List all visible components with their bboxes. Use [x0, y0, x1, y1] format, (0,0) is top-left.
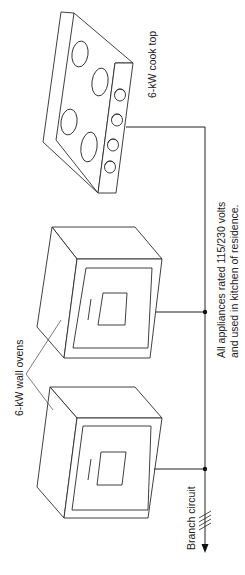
wiring-diagram: 6-kW cook top 6-kW wall ovens All applia… [0, 0, 245, 575]
oven-front [64, 418, 162, 518]
cook-top [43, 12, 133, 193]
junction-dot [203, 310, 207, 314]
note-line-1: All appliances rated 115/230 volts [215, 202, 227, 358]
wall-oven-1 [37, 227, 162, 358]
note-line-2: and used in kitchen of residence. [228, 204, 240, 358]
arrow-down-icon [202, 544, 209, 553]
junction-dot [203, 467, 207, 471]
wall-oven-2 [37, 387, 162, 518]
wall-ovens-label: 6-kW wall ovens [13, 340, 25, 416]
branch-circuit-label: Branch circuit [185, 486, 197, 550]
cook-top-label: 6-kW cook top [146, 31, 158, 98]
oven-front [64, 259, 162, 358]
